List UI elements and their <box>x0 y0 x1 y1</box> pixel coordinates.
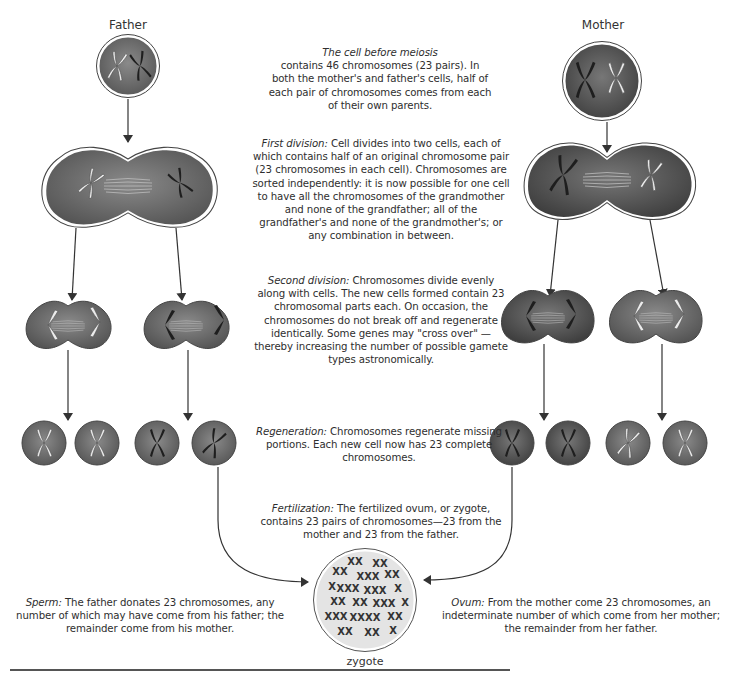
mother-first-division-cell <box>524 143 696 220</box>
zygote-label: zygote <box>330 655 400 668</box>
svg-text:X: X <box>328 581 336 592</box>
zygote-cell: XXXX XXXXXXX XXXXXXXX XXXXXXXX XXXXXXXXX… <box>314 549 417 652</box>
svg-text:XX: XX <box>330 596 346 607</box>
caption-text: Cell divides into two cells, each of whi… <box>252 138 509 241</box>
caption-term: Regeneration: <box>256 426 327 437</box>
caption-term: Sperm: <box>26 597 62 608</box>
svg-text:XXX: XXX <box>356 571 379 582</box>
father-gamete-cells <box>22 421 236 465</box>
caption-text: contains 46 chromosomes (23 pairs). In b… <box>269 60 492 111</box>
caption-term: Ovum: <box>451 597 484 608</box>
svg-text:XX: XX <box>352 597 368 608</box>
svg-text:X: X <box>389 625 397 636</box>
mother-label: Mother <box>570 18 636 32</box>
caption-text: Chromosomes divide evenly along with cel… <box>254 275 508 365</box>
svg-text:XX: XX <box>332 566 348 577</box>
caption-regeneration: Regeneration: Chromosomes regenerate mis… <box>248 425 510 465</box>
svg-text:X: X <box>394 583 402 594</box>
caption-sperm: Sperm: The father donates 23 chromosomes… <box>14 596 286 636</box>
svg-text:XXX: XXX <box>363 585 386 596</box>
svg-text:X: X <box>401 597 409 608</box>
father-first-division-cell <box>42 147 217 227</box>
svg-text:XX: XX <box>364 627 380 638</box>
caption-before-meiosis: The cell before meiosis contains 46 chro… <box>268 46 492 112</box>
mother-parent-cell <box>563 42 642 121</box>
svg-text:XX: XX <box>337 626 353 637</box>
svg-text:XXX: XXX <box>324 611 347 622</box>
mother-second-division-cell-right <box>610 291 703 343</box>
svg-text:XX: XX <box>384 569 400 580</box>
mother-second-division-cell-left <box>502 291 595 343</box>
svg-text:XXX: XXX <box>372 598 395 609</box>
caption-fertilization: Fertilization: The fertilized ovum, or z… <box>252 502 510 542</box>
father-parent-cell <box>97 35 160 98</box>
svg-text:XXX: XXX <box>336 583 359 594</box>
father-second-division-cell-left <box>26 301 111 348</box>
caption-term: The cell before meiosis <box>322 47 438 58</box>
svg-text:XX: XX <box>387 611 403 622</box>
caption-second-division: Second division: Chromosomes divide even… <box>254 274 508 366</box>
svg-text:XXXX: XXXX <box>350 612 381 623</box>
caption-ovum: Ovum: From the mother come 23 chromosome… <box>442 596 720 636</box>
father-second-division-cell-right <box>144 301 229 348</box>
caption-first-division: First division: Cell divides into two ce… <box>250 137 512 243</box>
bottom-divider <box>10 669 510 671</box>
caption-term: First division: <box>261 138 327 149</box>
caption-text: From the mother come 23 chromosomes, an … <box>442 597 720 634</box>
father-label: Father <box>98 18 158 32</box>
caption-term: Second division: <box>268 275 350 286</box>
caption-term: Fertilization: <box>272 503 334 514</box>
svg-text:XX: XX <box>347 556 363 567</box>
svg-text:XX: XX <box>372 558 388 569</box>
mother-gamete-cells <box>490 421 707 465</box>
